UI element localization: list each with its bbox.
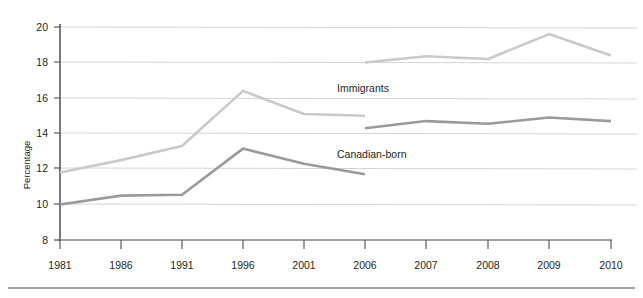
series-line-immigrants-seg1 [60,91,365,173]
x-tick-label-1981: 1981 [48,259,72,271]
series-line-immigrants-seg2 [365,34,611,62]
gridline-16 [60,98,637,99]
line-chart: 20 18 16 14 12 10 8 Percentage 1981 1986… [0,0,643,298]
y-tick-label-10: 10 [36,198,48,210]
x-tick-label-2007: 2007 [414,259,438,271]
gridline-20 [60,27,637,28]
gridline-12 [60,168,637,169]
series-line-canadian-born-seg1 [60,149,365,205]
x-tick-label-2009: 2009 [537,259,561,271]
x-tick-label-1991: 1991 [170,259,194,271]
y-tick-label-14: 14 [36,127,48,139]
x-tick-label-2008: 2008 [476,259,500,271]
y-tick-label-8: 8 [42,234,48,246]
y-tick-label-18: 18 [36,56,48,68]
y-tick-label-12: 12 [36,162,48,174]
gridline-14 [60,133,637,134]
gridline-10 [60,204,637,205]
x-tick-label-2006: 2006 [353,259,377,271]
x-axis-ticks [60,240,611,249]
x-tick-label-2001: 2001 [292,259,316,271]
series-layer [60,34,611,204]
y-axis-title: Percentage [21,141,32,190]
x-tick-label-1986: 1986 [109,259,133,271]
chart-container: 20 18 16 14 12 10 8 Percentage 1981 1986… [0,0,643,298]
y-tick-label-20: 20 [36,21,48,33]
y-axis-ticks [54,27,60,240]
series-line-canadian-born-seg2 [365,118,611,129]
y-tick-label-16: 16 [36,92,48,104]
gridline-18 [60,62,637,63]
series-annotation-immigrants: Immigrants [337,82,389,94]
x-tick-label-2010: 2010 [599,259,623,271]
x-tick-label-1996: 1996 [231,259,255,271]
series-annotation-canadian-born: Canadian-born [337,148,407,160]
